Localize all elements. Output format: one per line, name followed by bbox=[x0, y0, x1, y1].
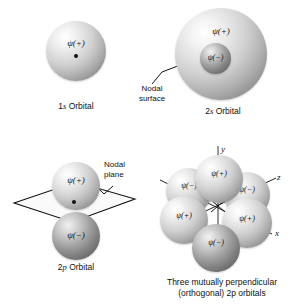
caption-2p-set-line2: (orthogonal) 2p orbitals bbox=[146, 288, 298, 299]
lobe-sign-set-top: ψ(+) bbox=[195, 169, 243, 178]
axis-label-y: y bbox=[221, 144, 225, 154]
orbital-lobe-1s: ψ(+) bbox=[46, 21, 106, 81]
caption-2p-set-line1: Three mutually perpendicular bbox=[146, 277, 298, 288]
caption-2s-suffix: Orbital bbox=[213, 106, 240, 116]
orbital-lobe-2p-bottom: ψ(−) bbox=[52, 212, 100, 260]
orbital-lobe-set-bottom: ψ(−) bbox=[192, 224, 240, 272]
annotation-nodal-plane-line1: Nodal bbox=[104, 160, 148, 170]
orbital-diagram: ψ(+) 1s Orbital ψ(+) ψ(−) Nodal surface … bbox=[0, 0, 298, 307]
caption-2p-set-line2-b: orbitals bbox=[236, 288, 266, 298]
lobe-sign-1s: ψ(+) bbox=[46, 38, 106, 48]
lobe-sign-2p-top: ψ(+) bbox=[52, 175, 100, 185]
caption-2s: 2s Orbital bbox=[180, 106, 266, 116]
annotation-nodal-surface: Nodal surface bbox=[119, 84, 185, 104]
caption-2p: 2p Orbital bbox=[18, 262, 134, 272]
annotation-nodal-plane-line2: plane bbox=[104, 170, 148, 180]
caption-1s-suffix: Orbital bbox=[66, 101, 93, 111]
lobe-sign-2p-bottom: ψ(−) bbox=[52, 230, 100, 240]
caption-2p-set-line2-a: (orthogonal) 2 bbox=[178, 288, 231, 298]
axis-label-z: z bbox=[277, 172, 281, 182]
caption-2p-suffix: Orbital bbox=[67, 262, 94, 272]
nucleus-dot-1s bbox=[74, 54, 78, 58]
nucleus-dot-2p bbox=[72, 200, 76, 204]
annotation-nodal-surface-line2: surface bbox=[119, 94, 185, 104]
orbital-lobe-set-top: ψ(+) bbox=[195, 155, 243, 203]
annotation-nodal-plane: Nodal plane bbox=[104, 160, 148, 180]
axis-label-x: x bbox=[275, 228, 279, 238]
annotation-nodal-surface-line1: Nodal bbox=[119, 84, 185, 94]
lobe-sign-set-bottom: ψ(−) bbox=[192, 238, 240, 247]
lobe-sign-2s-inner: ψ(−) bbox=[200, 53, 231, 62]
lobe-sign-set-lower-right: ψ(+) bbox=[222, 214, 272, 223]
orbital-lobe-2p-top: ψ(+) bbox=[52, 162, 100, 210]
caption-2p-set: Three mutually perpendicular (orthogonal… bbox=[146, 277, 298, 299]
lobe-sign-2s-outer: ψ(+) bbox=[175, 26, 267, 36]
lobe-sign-set-lower-left: ψ(+) bbox=[160, 211, 208, 220]
orbital-lobe-2s-inner: ψ(−) bbox=[200, 43, 231, 74]
